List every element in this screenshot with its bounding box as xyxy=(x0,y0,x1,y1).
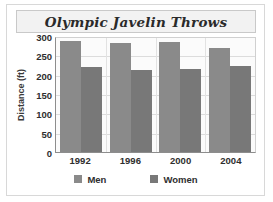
chart-title-banner: Olympic Javelin Throws xyxy=(16,10,256,33)
y-axis-title-label: Distance (ft) xyxy=(16,69,26,121)
bar-group-2004 xyxy=(205,38,255,152)
y-axis-tick-100: 100 xyxy=(36,109,52,120)
y-axis-tick-300: 300 xyxy=(36,32,52,43)
plot-block: Distance (ft) 050100150200250300 1992199… xyxy=(16,37,256,165)
legend-item-women[interactable]: Women xyxy=(150,174,197,185)
x-axis-tick-2000: 2000 xyxy=(170,155,191,166)
y-axis-tick-200: 200 xyxy=(36,70,52,81)
y-axis-tick-250: 250 xyxy=(36,51,52,62)
y-axis-tick-labels: 050100150200250300 xyxy=(28,37,54,153)
y-axis-title: Distance (ft) xyxy=(14,37,28,153)
bar-women-1996[interactable] xyxy=(131,70,152,152)
bar-group-1996 xyxy=(106,38,156,152)
x-axis-tick-1996: 1996 xyxy=(120,155,141,166)
y-axis-tick-150: 150 xyxy=(36,90,52,101)
chart-legend: MenWomen xyxy=(16,171,256,187)
bar-group-2000 xyxy=(156,38,206,152)
legend-label-women: Women xyxy=(163,174,197,185)
plot-area xyxy=(55,37,256,153)
page-title: Olympic Javelin Throws xyxy=(45,14,227,30)
legend-swatch-women-icon xyxy=(150,175,158,183)
bar-women-2000[interactable] xyxy=(180,69,201,152)
y-axis-tick-0: 0 xyxy=(47,148,52,159)
bar-men-2000[interactable] xyxy=(159,42,180,152)
bar-women-2004[interactable] xyxy=(230,66,251,152)
x-axis-tick-labels: 1992199620002004 xyxy=(55,155,256,169)
chart-card: Olympic Javelin Throws Distance (ft) 050… xyxy=(6,4,265,196)
y-axis-tick-50: 50 xyxy=(41,128,52,139)
legend-swatch-men-icon xyxy=(74,175,82,183)
legend-item-men[interactable]: Men xyxy=(74,174,106,185)
bar-men-1992[interactable] xyxy=(60,41,81,152)
legend-label-men: Men xyxy=(87,174,106,185)
bar-women-1992[interactable] xyxy=(81,67,102,152)
x-axis-tick-1992: 1992 xyxy=(70,155,91,166)
x-axis-tick-2004: 2004 xyxy=(220,155,241,166)
bar-men-1996[interactable] xyxy=(110,43,131,152)
bar-group-1992 xyxy=(56,38,106,152)
bar-men-2004[interactable] xyxy=(209,48,230,152)
